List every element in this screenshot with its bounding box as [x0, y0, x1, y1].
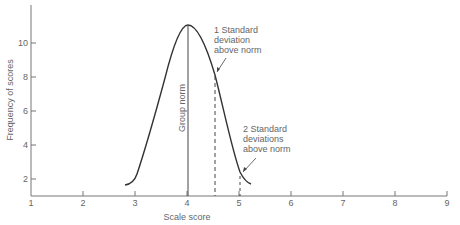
- arrow-icon: [243, 167, 247, 172]
- sd2-annotation: 2 Standard deviations above norm: [243, 124, 291, 172]
- x-tick-label: 5: [236, 198, 241, 208]
- svg-text:deviations: deviations: [243, 134, 284, 144]
- svg-text:2 Standard: 2 Standard: [243, 124, 287, 134]
- x-ticks: 1 2 3 4 5 6 7 8 9: [28, 191, 449, 208]
- svg-text:1 Standard: 1 Standard: [214, 25, 258, 35]
- x-tick-label: 3: [132, 198, 137, 208]
- y-tick-label: 4: [23, 140, 28, 150]
- y-tick-label: 10: [18, 38, 28, 48]
- svg-text:above norm: above norm: [214, 45, 262, 55]
- svg-text:deviation: deviation: [214, 35, 250, 45]
- x-tick-label: 8: [392, 198, 397, 208]
- group-norm-label: Group norm: [177, 84, 187, 132]
- y-tick-label: 8: [23, 72, 28, 82]
- y-axis-label: Frequency of scores: [5, 59, 15, 141]
- svg-text:above norm: above norm: [243, 144, 291, 154]
- y-ticks: 10 8 6 4 2: [18, 38, 36, 184]
- y-tick-label: 6: [23, 106, 28, 116]
- x-tick-label: 2: [80, 198, 85, 208]
- x-tick-label: 9: [444, 198, 449, 208]
- x-tick-label: 1: [28, 198, 33, 208]
- chart-canvas: 10 8 6 4 2 1 2 3 4 5 6 7 8 9 Scale score…: [0, 0, 460, 225]
- x-tick-label: 4: [184, 198, 189, 208]
- y-tick-label: 2: [23, 174, 28, 184]
- x-axis-label: Scale score: [163, 212, 210, 222]
- sd1-annotation: 1 Standard deviation above norm: [214, 25, 262, 72]
- x-tick-label: 7: [340, 198, 345, 208]
- x-tick-label: 6: [288, 198, 293, 208]
